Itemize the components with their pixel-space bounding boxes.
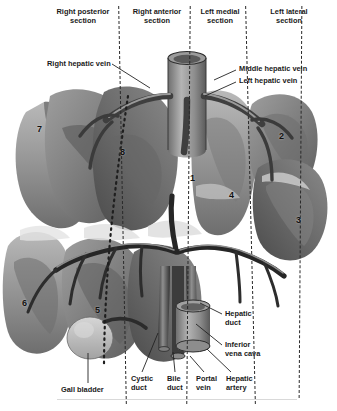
segment-number-8: 8 — [120, 147, 125, 157]
callout-hepatic-artery: Hepatic artery — [226, 375, 253, 392]
segment-number-1: 1 — [190, 173, 195, 183]
callout-cystic-duct: Cystic duct — [131, 375, 153, 392]
segment-number-4: 4 — [229, 190, 234, 200]
callout-portal-vein: Portal vein — [196, 375, 217, 392]
callout-middle-hepatic-vein: Middle hepatic vein — [239, 65, 307, 74]
bottom-rule — [57, 399, 297, 400]
callout-inferior-vena-cava: Inferior vena cava — [225, 341, 260, 358]
segment-number-5: 5 — [95, 305, 100, 315]
leader-left-hepatic-vein — [205, 82, 236, 96]
liver-anatomy-figure: Right posterior section Right anterior s… — [0, 0, 337, 411]
leader-middle-hepatic-vein — [214, 70, 236, 80]
segment-number-3: 3 — [296, 215, 301, 225]
leader-right-hepatic-vein — [112, 64, 150, 88]
callout-hepatic-duct: Hepatic duct — [225, 310, 252, 327]
leader-hepatic-duct — [200, 303, 222, 314]
callout-right-hepatic-vein: Right hepatic vein — [47, 60, 111, 69]
leader-cystic-duct — [142, 333, 158, 372]
callout-bile-duct: Bile duct — [167, 375, 183, 392]
segment-number-6: 6 — [22, 298, 27, 308]
callout-gall-bladder: Gall bladder — [61, 386, 104, 395]
leader-inferior-vena-cava — [196, 324, 222, 345]
segment-number-7: 7 — [37, 124, 42, 134]
leader-portal-vein — [190, 356, 204, 372]
segment-number-2: 2 — [279, 131, 284, 141]
callout-left-hepatic-vein: Left hepatic vein — [239, 77, 297, 86]
leader-bile-duct — [173, 352, 175, 372]
